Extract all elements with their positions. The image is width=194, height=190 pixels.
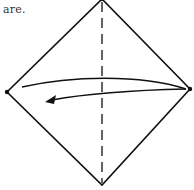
- fold-arrow-icon: [22, 78, 186, 104]
- fold-diagram: [0, 0, 194, 190]
- right-corner-dot: [188, 87, 192, 91]
- left-corner-dot: [5, 90, 9, 94]
- paper-square-outline: [7, 0, 190, 185]
